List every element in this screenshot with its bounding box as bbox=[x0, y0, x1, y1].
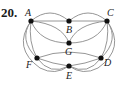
label-g: G bbox=[65, 46, 72, 57]
label-a: A bbox=[24, 7, 32, 18]
edge-f-e-upper bbox=[37, 58, 69, 66]
edge-b-c-arc bbox=[69, 13, 107, 21]
edge-a-b-arc bbox=[31, 13, 69, 21]
label-e: E bbox=[65, 70, 72, 81]
label-b: B bbox=[66, 24, 72, 35]
label-c: C bbox=[107, 7, 114, 18]
vertex-e bbox=[66, 63, 71, 68]
vertex-c bbox=[104, 18, 109, 23]
vertex-b bbox=[66, 18, 71, 23]
vertex-f bbox=[34, 55, 39, 60]
graph-diagram: A B C G F E D bbox=[0, 0, 116, 86]
edge-e-d-upper bbox=[69, 58, 101, 66]
vertex-d bbox=[98, 55, 103, 60]
label-d: D bbox=[103, 57, 112, 68]
edge-a-g-lower bbox=[31, 21, 69, 43]
vertex-g bbox=[66, 40, 71, 45]
vertex-a bbox=[28, 18, 33, 23]
label-f: F bbox=[25, 59, 33, 70]
edge-c-g-lower bbox=[69, 21, 107, 43]
